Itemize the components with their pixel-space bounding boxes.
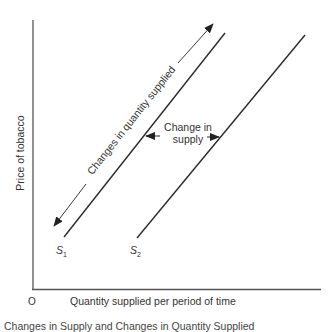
origin-label: O <box>28 296 36 307</box>
quantity-change-arrow-up <box>178 24 213 63</box>
supply-change-line2: supply <box>160 133 216 145</box>
supply-change-line1: Change in <box>160 121 216 133</box>
x-axis-label: Quantity supplied per period of time <box>70 295 236 307</box>
curve-label-s2: S2 <box>130 244 141 258</box>
y-axis-label: Price of tobacco <box>14 115 26 190</box>
figure-caption: Changes in Supply and Changes in Quantit… <box>4 320 254 332</box>
curve-label-s1: S1 <box>56 244 67 258</box>
supply-change-label: Change in supply <box>160 121 216 145</box>
quantity-change-arrow-down <box>54 184 86 226</box>
